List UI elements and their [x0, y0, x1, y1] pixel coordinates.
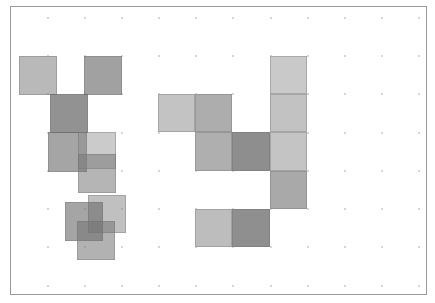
grid-dot: [158, 246, 160, 248]
grid-dot: [47, 246, 49, 248]
grid-dot: [344, 208, 346, 210]
tile-l2: [84, 56, 122, 95]
grid-dot: [158, 132, 160, 134]
grid-dot: [381, 55, 383, 57]
grid-dot: [344, 93, 346, 95]
grid-dot: [381, 246, 383, 248]
grid-dot: [121, 132, 123, 134]
grid-dot: [158, 208, 160, 210]
grid-dot: [307, 93, 309, 95]
grid-dot: [418, 17, 420, 19]
grid-dot: [307, 285, 309, 287]
grid-dot: [381, 93, 383, 95]
tile-l1: [19, 56, 57, 95]
grid-dot: [195, 285, 197, 287]
grid-dot: [84, 285, 86, 287]
grid-dot: [232, 93, 234, 95]
grid-dot: [121, 285, 123, 287]
grid-dot: [344, 285, 346, 287]
tile-r6: [232, 132, 270, 171]
grid-dot: [381, 170, 383, 172]
diagram-canvas: [0, 0, 435, 303]
grid-dot: [121, 17, 123, 19]
grid-dot: [418, 132, 420, 134]
tile-l9: [77, 221, 115, 260]
tile-r1: [270, 56, 307, 94]
tile-r3: [195, 94, 232, 132]
grid-dot: [307, 17, 309, 19]
grid-dot: [307, 208, 309, 210]
grid-dot: [232, 285, 234, 287]
grid-dot: [84, 17, 86, 19]
grid-dot: [307, 55, 309, 57]
grid-dot: [270, 285, 272, 287]
tile-r4: [270, 94, 307, 132]
grid-dot: [158, 285, 160, 287]
grid-dot: [195, 55, 197, 57]
grid-dot: [232, 17, 234, 19]
grid-dot: [418, 285, 420, 287]
grid-dot: [344, 17, 346, 19]
grid-dot: [381, 132, 383, 134]
grid-dot: [344, 246, 346, 248]
grid-dot: [418, 208, 420, 210]
tile-l6: [78, 154, 116, 193]
tile-r9: [195, 209, 232, 247]
grid-dot: [307, 246, 309, 248]
grid-dot: [158, 17, 160, 19]
grid-dot: [418, 93, 420, 95]
grid-dot: [418, 170, 420, 172]
grid-dot: [270, 246, 272, 248]
grid-dot: [307, 132, 309, 134]
grid-dot: [418, 55, 420, 57]
grid-dot: [381, 208, 383, 210]
tile-r5: [195, 132, 232, 171]
tile-l3: [50, 94, 88, 133]
tile-r7: [270, 132, 307, 171]
grid-dot: [47, 285, 49, 287]
grid-dot: [158, 170, 160, 172]
grid-dot: [418, 246, 420, 248]
grid-dot: [344, 132, 346, 134]
grid-dot: [121, 246, 123, 248]
grid-dot: [344, 170, 346, 172]
grid-dot: [195, 17, 197, 19]
grid-dot: [121, 170, 123, 172]
grid-dot: [232, 55, 234, 57]
tile-r8: [270, 171, 307, 209]
grid-dot: [381, 17, 383, 19]
grid-dot: [381, 285, 383, 287]
tile-r2: [158, 94, 195, 132]
grid-dot: [307, 170, 309, 172]
grid-dot: [344, 55, 346, 57]
grid-dot: [47, 17, 49, 19]
grid-dot: [158, 55, 160, 57]
grid-dot: [270, 17, 272, 19]
tile-r10: [232, 209, 270, 247]
grid-dot: [47, 208, 49, 210]
